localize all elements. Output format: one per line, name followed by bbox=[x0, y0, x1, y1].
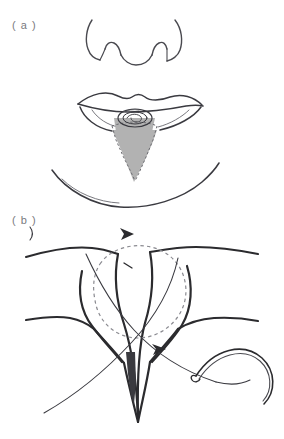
suture-thread bbox=[44, 254, 250, 413]
dashed-circle-marker bbox=[94, 246, 186, 338]
needle-entry-tick bbox=[124, 263, 132, 268]
curved-needle bbox=[191, 349, 273, 404]
panel-b-stray-mark bbox=[30, 227, 32, 240]
figure-artwork bbox=[0, 0, 284, 439]
figure-root: ( a ) bbox=[0, 0, 284, 439]
wedge-defect-outline bbox=[80, 252, 191, 422]
direction-arrowhead-top bbox=[120, 228, 134, 240]
nose-outline bbox=[86, 20, 181, 65]
panel-label-b: ( b ) bbox=[12, 214, 37, 226]
vermilion-border-line bbox=[26, 247, 258, 329]
wedge-excision-shaded-area bbox=[112, 118, 157, 182]
